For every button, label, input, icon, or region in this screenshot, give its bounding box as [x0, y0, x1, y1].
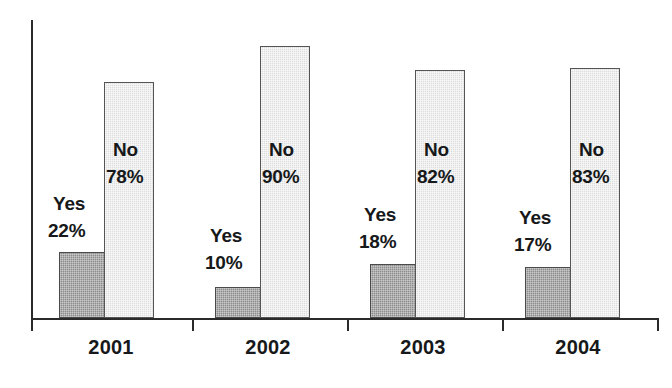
bar-no-2003 — [415, 70, 465, 318]
bar-label-yes-2003-value: 18% — [359, 230, 396, 254]
bar-label-no-2004-name: No — [579, 138, 604, 162]
bar-no-2004 — [570, 68, 620, 318]
bar-yes-2003 — [370, 264, 416, 318]
bar-label-yes-2001-name: Yes — [53, 192, 85, 216]
bar-label-no-2002-name: No — [269, 138, 294, 162]
bar-yes-2002 — [215, 287, 261, 318]
plot-area: Yes 22% No 78% Yes 10% No 90% Yes 18% No… — [0, 0, 672, 388]
x-axis-tick — [192, 320, 194, 331]
bar-label-yes-2001-value: 22% — [48, 219, 85, 243]
x-axis-label-2002: 2002 — [208, 336, 328, 359]
bar-label-no-2003-name: No — [424, 138, 449, 162]
bar-no-2001 — [104, 82, 154, 318]
bar-chart-figure: Yes 22% No 78% Yes 10% No 90% Yes 18% No… — [0, 0, 672, 388]
bar-label-yes-2002-name: Yes — [210, 224, 242, 248]
bar-label-no-2001-value: 78% — [106, 165, 143, 189]
bar-label-no-2001-name: No — [113, 138, 138, 162]
clipped-caption-text — [26, 376, 646, 386]
x-axis-line — [31, 318, 659, 320]
bar-label-no-2004-value: 83% — [572, 165, 609, 189]
bar-label-no-2002-value: 90% — [262, 165, 299, 189]
x-axis-label-2004: 2004 — [518, 336, 638, 359]
bar-label-yes-2003-name: Yes — [364, 203, 396, 227]
bar-label-yes-2004-value: 17% — [514, 233, 551, 257]
bar-label-no-2003-value: 82% — [417, 165, 454, 189]
bar-yes-2004 — [525, 267, 571, 318]
x-axis-tick — [502, 320, 504, 331]
x-axis-tick — [347, 320, 349, 331]
x-axis-label-2003: 2003 — [363, 336, 483, 359]
bar-yes-2001 — [59, 252, 105, 318]
x-axis-tick — [657, 320, 659, 331]
bar-label-yes-2004-name: Yes — [519, 206, 551, 230]
bar-label-yes-2002-value: 10% — [205, 251, 242, 275]
y-axis-line — [31, 20, 33, 320]
x-axis-tick — [31, 320, 33, 331]
x-axis-label-2001: 2001 — [51, 336, 171, 359]
